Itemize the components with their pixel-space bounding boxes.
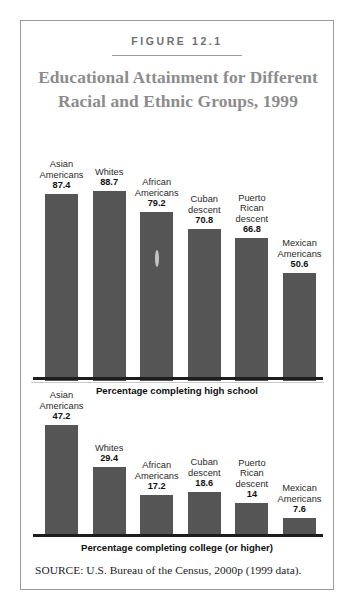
section-divider <box>31 382 324 383</box>
bar-group: Puerto Rican descent14 <box>235 503 268 536</box>
bar <box>45 194 78 381</box>
bar-group: African Americans79.2 <box>140 212 173 381</box>
chart-college: Asian Americans47.2Whites29.4African Ame… <box>21 401 333 536</box>
bar-value-label: 79.2 <box>129 198 185 210</box>
bar-label-block: Cuban descent70.8 <box>179 194 229 229</box>
figure-header-divider <box>112 55 242 56</box>
scan-artifact <box>155 250 159 267</box>
bar-group: Asian Americans87.4 <box>45 194 78 381</box>
bar-value-label: 66.8 <box>228 224 276 236</box>
bar-group: Puerto Rican descent66.8 <box>235 238 268 381</box>
bar <box>93 467 126 536</box>
bar-label-block: Asian Americans47.2 <box>35 390 89 425</box>
bar <box>235 503 268 536</box>
bar-label-block: Cuban descent18.6 <box>179 457 229 492</box>
bar-group: Whites29.4 <box>93 467 126 536</box>
bar-category-label: Asian Americans <box>35 159 89 180</box>
bar-group: African Americans17.2 <box>140 495 173 536</box>
bar-category-label: Mexican Americans <box>269 483 331 504</box>
bar-value-label: 18.6 <box>179 478 229 490</box>
bar-category-label: Puerto Rican descent <box>228 193 276 225</box>
bar-category-label: Asian Americans <box>35 390 89 411</box>
bar <box>188 229 221 381</box>
bar <box>235 238 268 381</box>
bar-label-block: Asian Americans87.4 <box>35 159 89 194</box>
bar-value-label: 70.8 <box>179 215 229 227</box>
bar <box>45 425 78 536</box>
plot-area-high-school: Asian Americans87.4Whites88.7African Ame… <box>35 141 321 381</box>
bar-category-label: Cuban descent <box>179 457 229 478</box>
bar-value-label: 7.6 <box>269 504 331 516</box>
bar-group: Asian Americans47.2 <box>45 425 78 536</box>
bar-label-block: Whites29.4 <box>86 443 132 467</box>
bar-value-label: 50.6 <box>269 259 331 271</box>
bar <box>93 191 126 381</box>
bar-value-label: 47.2 <box>35 411 89 423</box>
bar-label-block: Mexican Americans50.6 <box>269 238 331 273</box>
figure-number-label: FIGURE 12.1 <box>21 35 333 47</box>
bar-category-label: African Americans <box>129 460 185 481</box>
bar <box>140 495 173 536</box>
chart-high-school: Asian Americans87.4Whites88.7African Ame… <box>21 141 333 381</box>
bar-value-label: 17.2 <box>129 481 185 493</box>
bar-category-label: Whites <box>86 167 132 178</box>
bar-label-block: Mexican Americans7.6 <box>269 483 331 518</box>
bar-category-label: Mexican Americans <box>269 238 331 259</box>
axis-baseline-high-school <box>33 377 323 380</box>
bar-label-block: Whites88.7 <box>86 167 132 191</box>
figure-container: FIGURE 12.1 Educational Attainment for D… <box>20 20 334 590</box>
bar-value-label: 29.4 <box>86 453 132 465</box>
bar-group: Mexican Americans50.6 <box>283 273 316 381</box>
bar-value-label: 88.7 <box>86 177 132 189</box>
bar <box>188 492 221 536</box>
bar-label-block: Puerto Rican descent66.8 <box>228 193 276 238</box>
bar <box>283 273 316 381</box>
bar-label-block: African Americans79.2 <box>129 177 185 212</box>
source-note: SOURCE: U.S. Bureau of the Census, 2000p… <box>35 564 325 576</box>
bar-category-label: Cuban descent <box>179 194 229 215</box>
plot-area-college: Asian Americans47.2Whites29.4African Ame… <box>35 401 321 536</box>
bar <box>140 212 173 381</box>
bar-group: Cuban descent70.8 <box>188 229 221 381</box>
bar-category-label: African Americans <box>129 177 185 198</box>
axis-baseline-college <box>33 534 323 537</box>
bar-category-label: Whites <box>86 443 132 454</box>
figure-title: Educational Attainment for Different Rac… <box>35 65 321 113</box>
bar-label-block: African Americans17.2 <box>129 460 185 495</box>
bar-value-label: 87.4 <box>35 180 89 192</box>
bar-group: Cuban descent18.6 <box>188 492 221 536</box>
bar-group: Whites88.7 <box>93 191 126 381</box>
axis-label-college: Percentage completing college (or higher… <box>21 542 333 553</box>
